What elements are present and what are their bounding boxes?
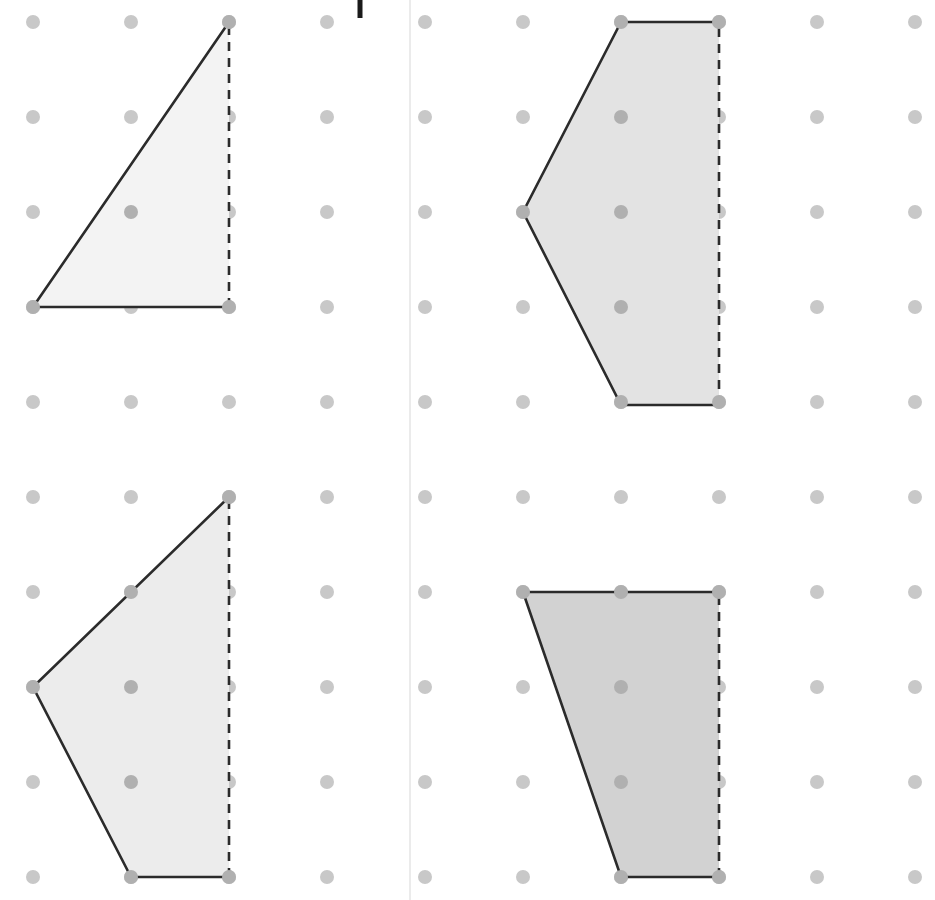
grid-dot-c5-r4 (516, 395, 530, 409)
grid-dot-c5-r9 (516, 870, 530, 884)
grid-dot-c9-r4 (908, 395, 922, 409)
grid-dot-c5-r7 (516, 680, 530, 694)
grid-dot-c9-r3 (908, 300, 922, 314)
grid-dot-c7-r5 (712, 490, 726, 504)
triangle-top-left[interactable] (33, 22, 229, 307)
trapezoid-bottom-right-fill[interactable] (523, 592, 719, 877)
grid-dot-c9-r6 (908, 585, 922, 599)
grid-dot-c8-r1 (810, 110, 824, 124)
grid-dot-c4-r8 (418, 775, 432, 789)
grid-dot-c9-r1 (908, 110, 922, 124)
grid-dot-c8-r9 (810, 870, 824, 884)
grid-dot-c2-r4 (222, 395, 236, 409)
grid-dot-c0-r8 (26, 775, 40, 789)
grid-dot-c4-r4 (418, 395, 432, 409)
grid-dot-c0-r2 (26, 205, 40, 219)
grid-dot-c1-r5 (124, 490, 138, 504)
grid-dot-c9-r8 (908, 775, 922, 789)
grid-dot-c8-r4 (810, 395, 824, 409)
grid-dot-c3-r6 (320, 585, 334, 599)
pentagon-top-right-fill[interactable] (523, 22, 719, 405)
grid-dot-c0-r0 (26, 15, 40, 29)
quadrilateral-bottom-left-fill[interactable] (33, 497, 229, 877)
grid-dot-c3-r2 (320, 205, 334, 219)
grid-dot-c3-r0 (320, 15, 334, 29)
grid-dot-c9-r0 (908, 15, 922, 29)
grid-dot-c0-r4 (26, 395, 40, 409)
grid-dot-c3-r8 (320, 775, 334, 789)
grid-dot-c1-r1 (124, 110, 138, 124)
grid-dot-c8-r8 (810, 775, 824, 789)
grid-dot-c5-r5 (516, 490, 530, 504)
dot-grid-figure (0, 0, 935, 900)
grid-dot-c3-r9 (320, 870, 334, 884)
grid-dot-c0-r9 (26, 870, 40, 884)
grid-dot-c3-r1 (320, 110, 334, 124)
grid-dot-c4-r1 (418, 110, 432, 124)
grid-dot-c9-r5 (908, 490, 922, 504)
grid-dot-c3-r7 (320, 680, 334, 694)
grid-dot-c8-r0 (810, 15, 824, 29)
grid-dot-c8-r5 (810, 490, 824, 504)
grid-dot-c9-r7 (908, 680, 922, 694)
grid-dot-c0-r1 (26, 110, 40, 124)
quadrilateral-bottom-left[interactable] (33, 497, 229, 877)
grid-dot-c5-r3 (516, 300, 530, 314)
grid-dot-c5-r0 (516, 15, 530, 29)
grid-dot-c4-r9 (418, 870, 432, 884)
grid-dot-c4-r3 (418, 300, 432, 314)
grid-dot-c4-r0 (418, 15, 432, 29)
grid-dot-c8-r3 (810, 300, 824, 314)
grid-dot-c0-r5 (26, 490, 40, 504)
grid-dot-c1-r0 (124, 15, 138, 29)
worksheet-canvas (0, 0, 935, 900)
grid-dot-c0-r6 (26, 585, 40, 599)
grid-dot-c8-r2 (810, 205, 824, 219)
grid-dot-c1-r4 (124, 395, 138, 409)
polygon-shapes-layer (33, 22, 719, 877)
grid-dot-c3-r5 (320, 490, 334, 504)
trapezoid-bottom-right[interactable] (523, 592, 719, 877)
grid-dot-c8-r6 (810, 585, 824, 599)
grid-dot-c3-r3 (320, 300, 334, 314)
grid-dot-c5-r8 (516, 775, 530, 789)
grid-dot-c9-r2 (908, 205, 922, 219)
pentagon-top-right[interactable] (523, 22, 719, 405)
grid-dot-c3-r4 (320, 395, 334, 409)
grid-dot-c4-r5 (418, 490, 432, 504)
grid-dot-c8-r7 (810, 680, 824, 694)
grid-dot-c4-r7 (418, 680, 432, 694)
grid-dot-c4-r2 (418, 205, 432, 219)
grid-dot-c6-r5 (614, 490, 628, 504)
grid-dot-c5-r1 (516, 110, 530, 124)
grid-dot-c9-r9 (908, 870, 922, 884)
grid-dot-c4-r6 (418, 585, 432, 599)
